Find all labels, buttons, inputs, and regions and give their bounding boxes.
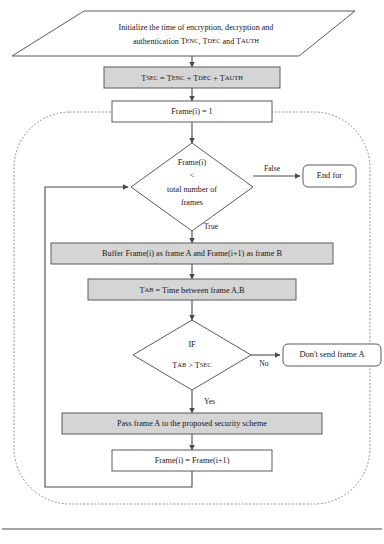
edge-label-false: False [264, 164, 281, 173]
node-initialize [12, 11, 355, 56]
edge-label-true: True [204, 222, 219, 231]
pass-frame-label: Pass frame A to the proposed security sc… [117, 419, 267, 428]
node-decision-if [133, 320, 251, 390]
tab-label: TAB = Time between frame A,B [139, 285, 245, 294]
tab-rest: = Time between frame A,B [154, 285, 246, 294]
decision-if-op: > T [186, 361, 199, 370]
flowchart-canvas: Initialize the time of encryption, decry… [0, 0, 384, 544]
frame-init-label: Frame(i) = 1 [171, 107, 212, 116]
tsec-sub: SEC [146, 74, 158, 81]
decision-frames-line1: Frame(i) [178, 158, 207, 167]
tsec-eq: = T [158, 73, 172, 82]
decision-frames-line2: < [190, 171, 195, 180]
end-for-label: End for [317, 171, 343, 180]
tsec-sub-auth: AUTH [225, 74, 243, 81]
initialize-sub-auth: AUTH [241, 37, 259, 44]
tsec-sub-enc: ENC [172, 74, 185, 81]
decision-frames-line3: total number of [167, 185, 217, 194]
initialize-line1: Initialize the time of encryption, decry… [119, 23, 274, 32]
initialize-sub-dec: DEC [207, 37, 220, 44]
decision-frames-line4: frames [181, 198, 203, 207]
buffer-label: Buffer Frame(i) as frame A and Frame(i+1… [102, 249, 282, 258]
initialize-line2-mid1: , T [199, 37, 208, 46]
frame-incr-label: Frame(i) = Frame(i+1) [155, 456, 230, 465]
decision-if-line1: IF [188, 340, 196, 349]
flowchart-figure: Initialize the time of encryption, decry… [0, 0, 384, 544]
tsec-sub-dec: DEC [198, 74, 211, 81]
tsec-plus2: + T [211, 73, 225, 82]
dont-send-label: Don't send frame A [299, 350, 364, 359]
edge-label-no: No [259, 359, 268, 368]
initialize-line2-mid2: and T [220, 37, 241, 46]
edge-label-yes: Yes [204, 397, 215, 406]
initialize-sub-enc: ENC [186, 37, 199, 44]
initialize-line2-pre: authentication T [133, 37, 186, 46]
decision-if-sub-sec: SEC [200, 361, 212, 368]
tsec-plus1: + T [185, 73, 199, 82]
